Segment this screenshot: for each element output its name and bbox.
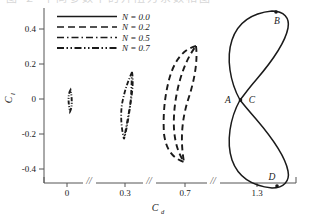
y-axis-title-text: C bbox=[3, 96, 14, 103]
marker-point-ac bbox=[239, 98, 243, 102]
y-tick-label-3: -0.2 bbox=[22, 129, 36, 139]
x-tick-label-2: 0.7 bbox=[179, 188, 191, 198]
marker-point-d bbox=[275, 184, 279, 188]
curve-n02-outer bbox=[164, 46, 196, 162]
cd-cl-phase-plot: N = 0.0 N = 0.2 N = 0.5 N = 0.7 0.4 0.2 … bbox=[0, 0, 310, 218]
curve-n02-inner bbox=[182, 46, 197, 162]
point-label-d: D bbox=[268, 172, 276, 182]
legend-label-n05: N = 0.5 bbox=[121, 33, 150, 43]
x-tick-label-0: 0 bbox=[65, 188, 70, 198]
y-axis-title-sub: l bbox=[9, 93, 16, 95]
x-axis-title-sub: d bbox=[161, 208, 165, 215]
legend-label-n02: N = 0.2 bbox=[121, 22, 150, 32]
point-label-a: A bbox=[224, 95, 231, 105]
x-axis-title-text: C bbox=[152, 202, 159, 213]
y-tick-label-0: 0.4 bbox=[25, 24, 37, 34]
x-axis: // // // 0 0.3 0.7 1.3 C d bbox=[44, 175, 296, 215]
x-axis-break-3: // bbox=[209, 175, 217, 186]
x-axis-break-1: // bbox=[85, 175, 93, 186]
legend-item-n05[interactable]: N = 0.5 bbox=[57, 33, 150, 43]
series-n05 bbox=[121, 72, 133, 139]
y-axis: 0.4 0.2 0 -0.2 -0.4 C l bbox=[3, 8, 44, 183]
x-tick-label-1: 0.3 bbox=[119, 188, 131, 198]
legend-item-n07[interactable]: N = 0.7 bbox=[57, 43, 150, 53]
y-tick-label-2: 0 bbox=[32, 94, 37, 104]
series-n07 bbox=[69, 90, 72, 112]
legend-label-n07: N = 0.7 bbox=[121, 43, 150, 53]
y-tick-label-4: -0.4 bbox=[22, 164, 37, 174]
y-tick-label-1: 0.2 bbox=[25, 59, 36, 69]
legend-item-n02[interactable]: N = 0.2 bbox=[57, 22, 150, 32]
x-axis-title: C d bbox=[152, 202, 165, 215]
legend: N = 0.0 N = 0.2 N = 0.5 N = 0.7 bbox=[57, 12, 150, 54]
x-tick-label-3: 1.3 bbox=[251, 188, 263, 198]
point-label-b: B bbox=[274, 16, 280, 26]
curve-n07 bbox=[69, 90, 72, 112]
legend-label-n00: N = 0.0 bbox=[121, 12, 150, 22]
x-axis-break-2: // bbox=[145, 175, 153, 186]
curve-n00-lower bbox=[229, 100, 288, 188]
y-axis-title: C l bbox=[3, 93, 16, 103]
series-n00 bbox=[229, 10, 288, 188]
marker-point-b bbox=[274, 10, 278, 14]
legend-item-n00[interactable]: N = 0.0 bbox=[57, 12, 150, 22]
series-n02 bbox=[164, 46, 197, 162]
point-label-c: C bbox=[249, 95, 256, 105]
